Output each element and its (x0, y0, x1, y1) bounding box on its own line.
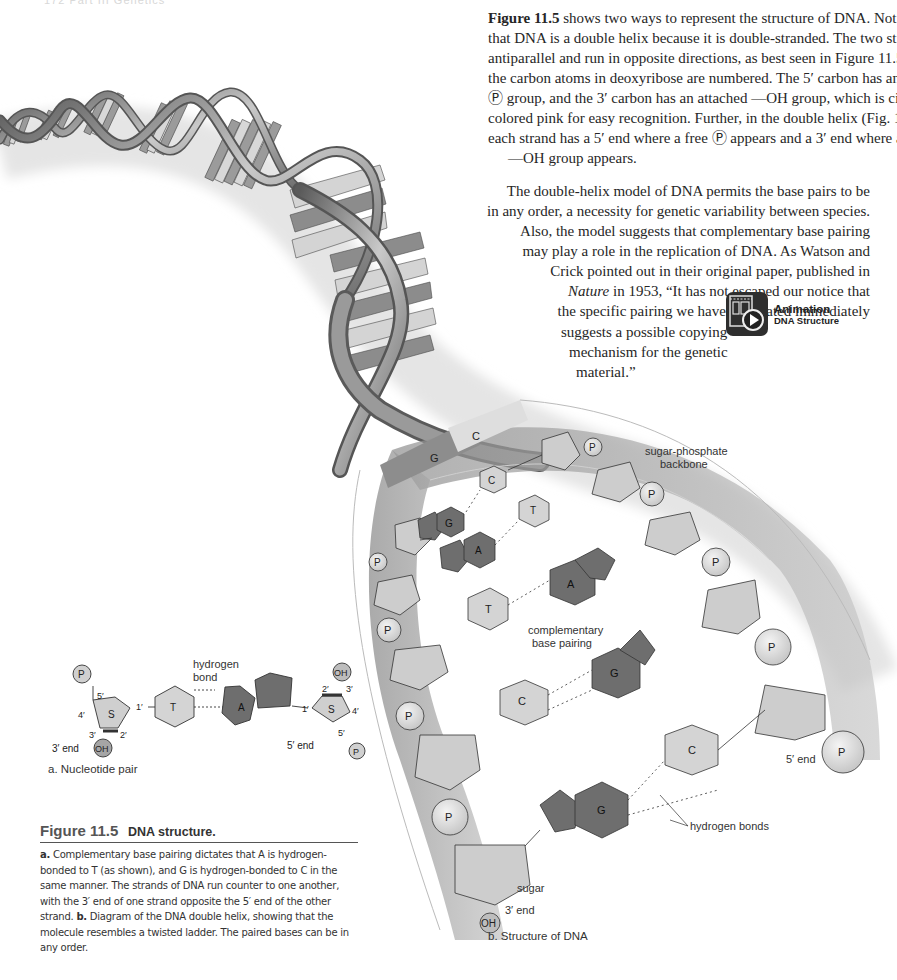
svg-text:2′: 2′ (120, 730, 127, 740)
svg-text:5′: 5′ (97, 691, 104, 701)
svg-text:3′ end: 3′ end (52, 743, 79, 754)
svg-text:OH: OH (481, 918, 496, 929)
svg-text:T: T (530, 505, 536, 516)
figure-caption: Figure 11.5 DNA structure. a. Complement… (40, 822, 358, 956)
svg-text:4′: 4′ (78, 710, 85, 720)
figure-b-label: b. Structure of DNA (488, 930, 588, 942)
svg-text:P: P (712, 556, 719, 568)
svg-text:complementary: complementary (528, 624, 604, 636)
svg-text:P: P (648, 488, 655, 500)
svg-text:C: C (688, 744, 696, 756)
svg-text:C: C (488, 475, 495, 486)
svg-text:1′: 1′ (136, 702, 143, 712)
svg-text:P: P (374, 557, 381, 568)
svg-text:base pairing: base pairing (532, 637, 592, 649)
svg-text:P: P (405, 710, 412, 722)
svg-text:sugar-phosphate: sugar-phosphate (645, 445, 728, 457)
svg-text:OH: OH (334, 668, 348, 678)
svg-text:1′: 1′ (302, 704, 309, 714)
svg-text:G: G (430, 452, 439, 464)
svg-text:G: G (610, 667, 619, 679)
svg-text:G: G (597, 804, 606, 816)
svg-text:2′: 2′ (322, 684, 329, 694)
caption-heading: Figure 11.5 DNA structure. (40, 822, 358, 843)
svg-text:P: P (589, 442, 596, 453)
svg-text:C: C (472, 430, 480, 442)
svg-text:C: C (518, 695, 526, 707)
svg-text:G: G (445, 518, 453, 529)
svg-text:S: S (108, 709, 115, 720)
svg-text:P: P (384, 624, 391, 636)
svg-text:hydrogen bonds: hydrogen bonds (690, 820, 769, 832)
svg-text:A: A (238, 702, 245, 713)
svg-text:OH: OH (95, 744, 109, 754)
svg-text:backbone: backbone (660, 458, 708, 470)
svg-text:5′ end: 5′ end (786, 753, 816, 765)
svg-text:P: P (838, 746, 845, 758)
svg-text:3′: 3′ (89, 730, 96, 740)
svg-text:4′: 4′ (352, 706, 359, 716)
figure-a-label: a. Nucleotide pair (48, 763, 138, 775)
svg-text:bond: bond (193, 671, 217, 683)
svg-text:S: S (328, 704, 335, 715)
svg-text:A: A (567, 578, 575, 590)
svg-text:P: P (353, 747, 359, 757)
svg-text:P: P (445, 811, 452, 823)
svg-text:P: P (768, 641, 775, 653)
svg-text:5′: 5′ (338, 728, 345, 738)
hydrogen-bond-label: hydrogen (193, 658, 239, 670)
caption-title: DNA structure. (128, 825, 216, 839)
svg-text:3′ end: 3′ end (505, 904, 535, 916)
svg-text:3′: 3′ (346, 684, 353, 694)
svg-text:sugar: sugar (517, 882, 545, 894)
svg-text:A: A (475, 545, 482, 556)
svg-text:P: P (78, 669, 85, 680)
svg-text:T: T (485, 603, 492, 615)
caption-figure-number: Figure 11.5 (40, 822, 118, 839)
svg-text:T: T (170, 702, 176, 713)
svg-text:5′ end: 5′ end (287, 740, 314, 751)
caption-body: a. Complementary base pairing dictates t… (40, 847, 358, 956)
